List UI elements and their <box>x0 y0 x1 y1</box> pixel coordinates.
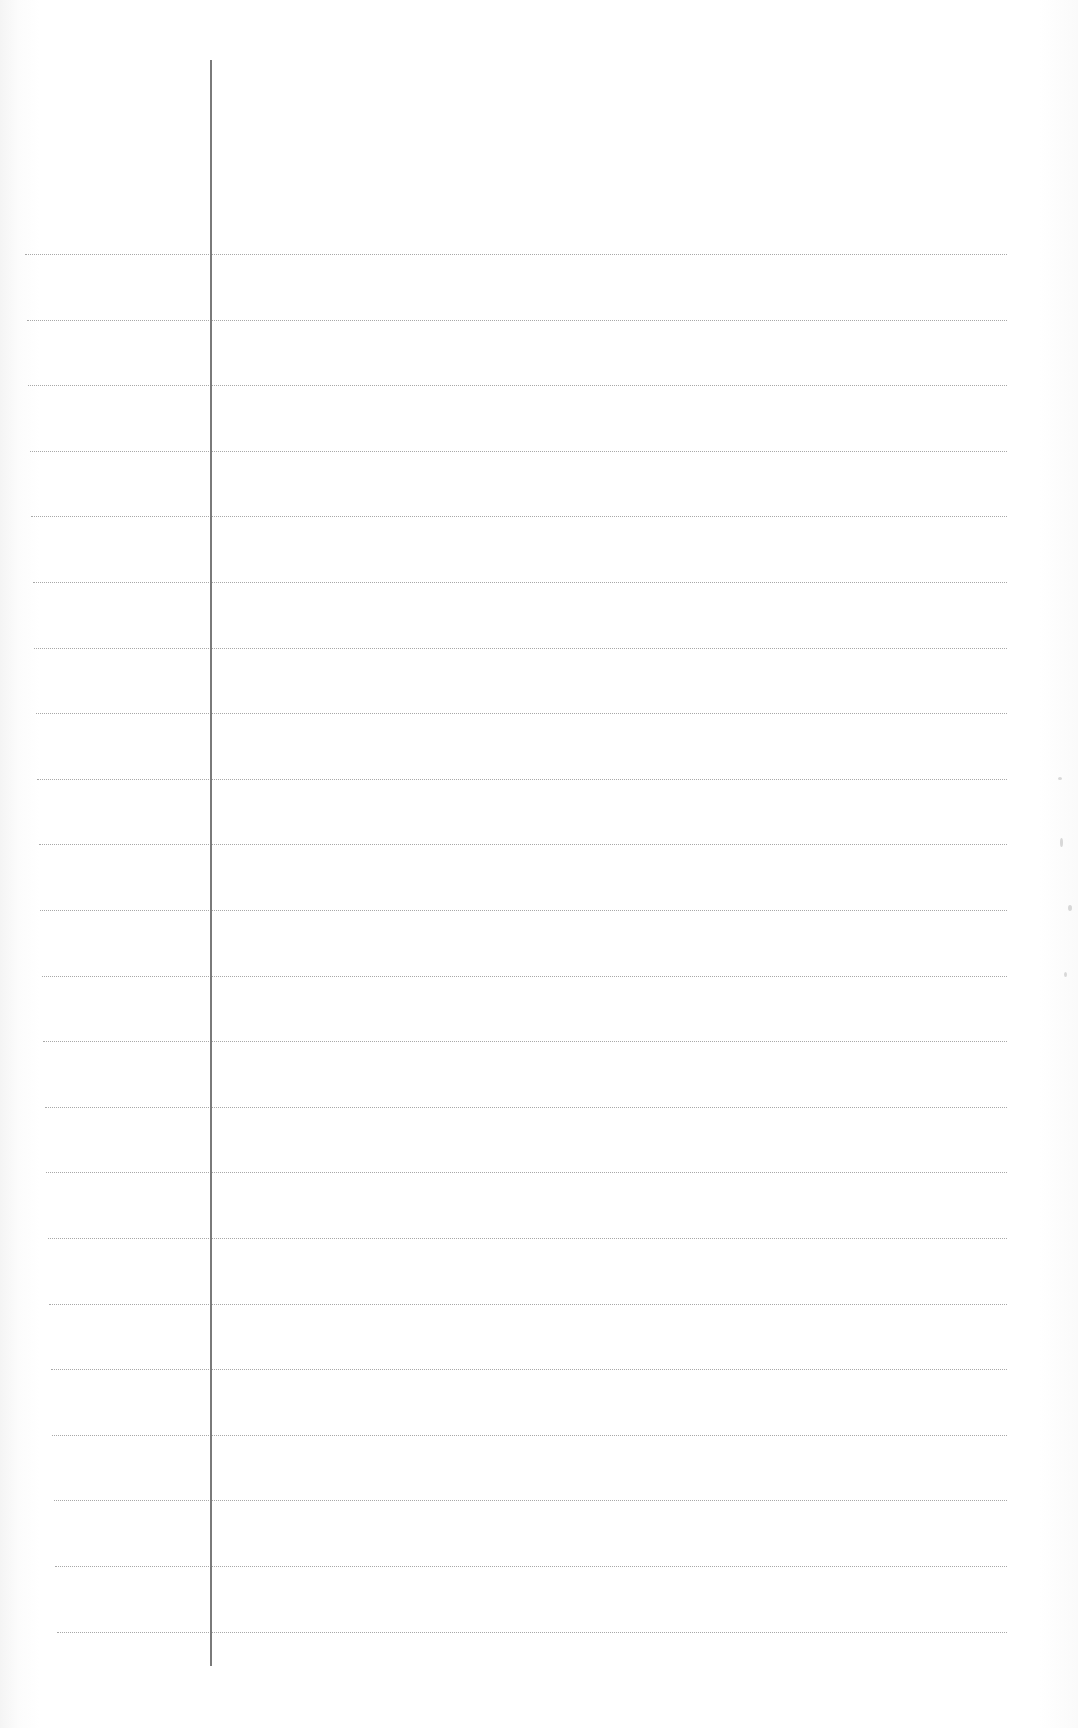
scan-speck <box>1064 972 1067 977</box>
rule-line <box>27 320 1007 321</box>
rule-line <box>57 1632 1007 1633</box>
rule-line <box>52 1435 1007 1436</box>
rule-line <box>42 976 1007 977</box>
margin-line <box>210 60 212 1666</box>
rule-line <box>51 1369 1007 1370</box>
rule-line <box>48 1238 1007 1239</box>
rule-line <box>37 779 1007 780</box>
rule-line <box>25 254 1007 255</box>
rule-line <box>55 1566 1007 1567</box>
rule-line <box>39 844 1007 845</box>
rule-line <box>45 1107 1007 1108</box>
rule-line <box>54 1500 1007 1501</box>
rule-line <box>30 451 1007 452</box>
rule-line <box>36 713 1007 714</box>
scan-speck <box>1068 905 1072 911</box>
rule-line <box>34 648 1007 649</box>
rule-line <box>43 1041 1007 1042</box>
rule-line <box>40 910 1007 911</box>
scan-speck <box>1058 777 1062 780</box>
notebook-page <box>0 0 1078 1728</box>
rule-line <box>31 516 1007 517</box>
rule-line <box>46 1172 1007 1173</box>
rule-line <box>28 385 1007 386</box>
scan-speck <box>1060 838 1063 847</box>
rule-line <box>33 582 1007 583</box>
rule-line <box>49 1304 1007 1305</box>
